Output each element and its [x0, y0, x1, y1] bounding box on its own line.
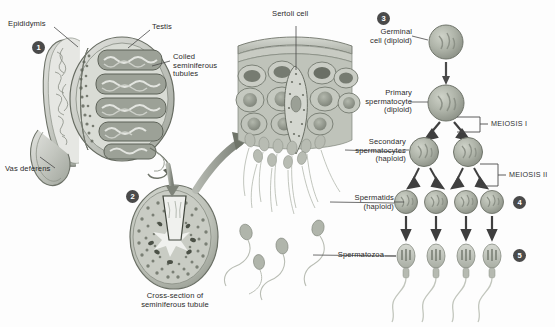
diagram-canvas: Epididymis Testis Coiled seminiferous tu…	[0, 0, 555, 327]
lobule	[104, 144, 156, 159]
label-testis: Testis	[152, 23, 172, 32]
germinal-cell	[429, 25, 463, 59]
caption-cross-section: Cross-section of seminiferous tubule	[116, 292, 234, 309]
lobule	[96, 98, 166, 118]
marker-5: 5	[513, 249, 526, 262]
secondary-spermatocyte-left	[410, 138, 439, 167]
spermatozoa-row	[392, 244, 501, 322]
arrows-to-spermatozoa	[402, 216, 496, 239]
label-germinal-cell: Germinal cell (diploid)	[352, 28, 412, 45]
lobule	[98, 50, 162, 70]
secondary-spermatocyte-right	[454, 138, 483, 167]
primary-spermatocyte	[428, 85, 464, 121]
arrow-germinal-to-primary	[442, 62, 450, 85]
label-coiled-seminiferous-tubules: Coiled seminiferous tubules	[173, 53, 217, 79]
arrows-meiosis-1	[425, 122, 469, 140]
lobule	[96, 74, 166, 94]
label-meiosis-1: MEIOSIS I	[491, 120, 527, 129]
label-vas-deferens: Vas deferens	[5, 165, 50, 174]
marker-3: 3	[377, 12, 390, 25]
tubule-wall-magnified	[224, 37, 360, 300]
diagram-artwork	[0, 0, 555, 327]
marker-4: 4	[513, 196, 526, 209]
label-sertoli-cell: Sertoli cell	[272, 10, 308, 19]
label-secondary-spermatocytes: Secondary spermatocytes (haploid)	[340, 138, 406, 164]
lobule	[99, 122, 163, 141]
spermatid-row	[395, 191, 504, 214]
testis-illustration	[31, 37, 174, 186]
label-primary-spermatocyte: Primary spermatocyte (diploid)	[350, 89, 412, 115]
tubule-cross-section	[130, 185, 218, 289]
arrows-meiosis-2	[408, 168, 487, 188]
marker-2: 2	[126, 190, 139, 203]
label-spermatozoa: Spermatozoa	[318, 251, 384, 260]
label-epididymis: Epididymis	[8, 20, 46, 29]
label-spermatids: Spermatids (haploid)	[332, 194, 394, 211]
marker-1: 1	[32, 41, 45, 54]
label-meiosis-2: MEIOSIS II	[509, 171, 547, 180]
lumen-spermatozoa	[224, 219, 325, 300]
